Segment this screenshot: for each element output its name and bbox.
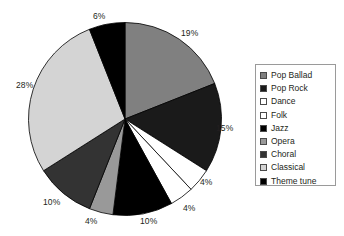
pie-percentage-label: 10%: [43, 197, 60, 207]
pie-percentage-label: 4%: [183, 203, 196, 213]
pie-slice-group: [28, 23, 221, 216]
legend-swatch-icon: [260, 112, 267, 119]
legend-item-opera[interactable]: Opera: [260, 135, 335, 148]
legend-item-label: Choral: [271, 150, 296, 159]
legend-swatch-icon: [260, 125, 267, 132]
legend-swatch-icon: [260, 85, 267, 92]
legend-item-label: Pop Rock: [271, 84, 308, 93]
pie-percentage-label: 10%: [140, 216, 157, 226]
legend-item-choral[interactable]: Choral: [260, 148, 335, 161]
legend-swatch-icon: [260, 98, 267, 105]
legend-item-label: Jazz: [271, 124, 288, 133]
pie-percentage-label: 6%: [93, 11, 106, 21]
legend-item-pop-ballad[interactable]: Pop Ballad: [260, 69, 335, 82]
pie-percentage-label: 28%: [16, 80, 33, 90]
legend-swatch-icon: [260, 164, 267, 171]
legend-swatch-icon: [260, 138, 267, 145]
pie-chart-figure: 6%19%15%4%4%10%4%10%28% Pop BalladPop Ro…: [0, 0, 344, 236]
pie-percentage-label: 4%: [85, 216, 98, 226]
legend-swatch-icon: [260, 151, 267, 158]
legend-item-label: Folk: [271, 111, 287, 120]
pie-percentage-label: 19%: [181, 28, 198, 38]
legend-item-label: Dance: [271, 97, 296, 106]
legend-item-label: Pop Ballad: [271, 71, 312, 80]
pie-percentage-label: 4%: [200, 177, 213, 187]
chart-legend: Pop BalladPop RockDanceFolkJazzOperaChor…: [255, 64, 336, 186]
legend-item-theme-tune[interactable]: Theme tune: [260, 175, 335, 188]
legend-item-jazz[interactable]: Jazz: [260, 122, 335, 135]
legend-swatch-icon: [260, 72, 267, 79]
legend-item-pop-rock[interactable]: Pop Rock: [260, 82, 335, 95]
legend-item-label: Classical: [271, 163, 305, 172]
legend-item-label: Opera: [271, 137, 295, 146]
legend-item-dance[interactable]: Dance: [260, 95, 335, 108]
legend-item-folk[interactable]: Folk: [260, 109, 335, 122]
pie-percentage-label: 15%: [216, 123, 233, 133]
legend-swatch-icon: [260, 178, 267, 185]
legend-item-classical[interactable]: Classical: [260, 161, 335, 174]
legend-item-label: Theme tune: [271, 177, 316, 186]
